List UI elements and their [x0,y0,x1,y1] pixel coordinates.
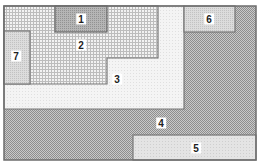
label-region-2: 2 [76,40,86,51]
label-region-5: 5 [191,143,201,154]
label-region-7: 7 [11,51,21,62]
region-diagram [0,0,261,165]
label-region-3: 3 [112,74,122,85]
label-region-4: 4 [156,118,166,129]
label-region-1: 1 [76,14,86,25]
label-region-6: 6 [204,14,214,25]
